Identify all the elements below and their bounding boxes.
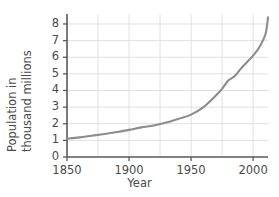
population-line-series: [67, 17, 268, 138]
y-tick-label: 3: [45, 99, 59, 113]
x-axis-label: Year: [0, 176, 279, 190]
y-axis-label-line-2: thousand millions: [20, 50, 34, 152]
y-tick-label: 0: [45, 149, 59, 163]
x-tick-label: 1850: [44, 163, 90, 177]
y-tick-label: 4: [45, 82, 59, 96]
y-tick-label: 5: [45, 66, 59, 80]
x-tick-label: 1950: [168, 163, 214, 177]
y-axis-label: Population in thousand millions: [4, 0, 50, 160]
y-axis-label-line-1: Population in: [5, 77, 19, 152]
x-tick-label: 2000: [230, 163, 276, 177]
y-tick-label: 1: [45, 132, 59, 146]
y-tick-label: 8: [45, 16, 59, 30]
y-tick-label: 7: [45, 33, 59, 47]
x-tick-label: 1900: [106, 163, 152, 177]
y-tick-label: 6: [45, 49, 59, 63]
population-chart-figure: Population in thousand millions Year 012…: [0, 0, 279, 197]
y-tick-label: 2: [45, 116, 59, 130]
